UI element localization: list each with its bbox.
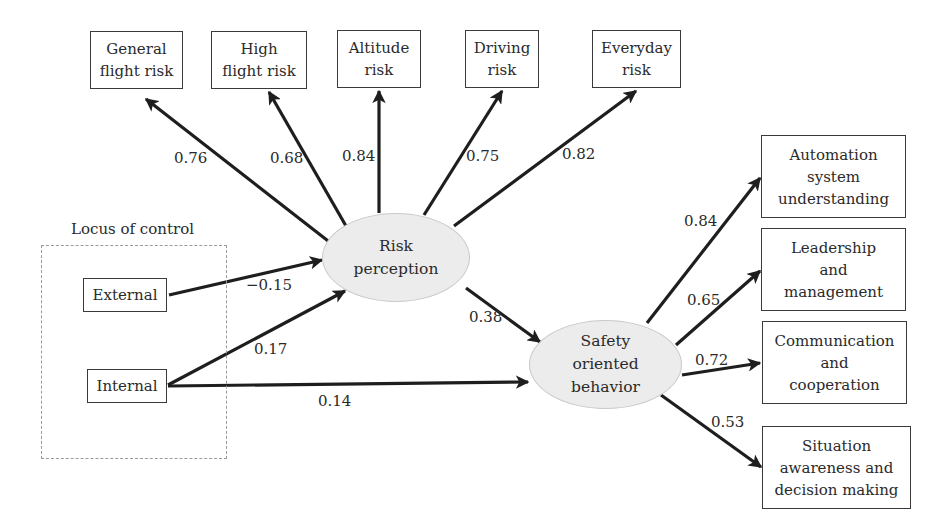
safety-behavior-line-2: oriented	[572, 353, 638, 376]
loading-general: 0.76	[174, 149, 207, 167]
internal-node: Internal	[87, 369, 167, 403]
communication-line-2: and	[820, 352, 848, 374]
altitude-risk-line-1: Altitude	[349, 37, 410, 59]
everyday-risk-node: Everyday risk	[592, 30, 681, 88]
everyday-risk-line-2: risk	[622, 59, 651, 81]
locus-of-control-title: Locus of control	[71, 220, 194, 238]
loading-communication: 0.72	[695, 351, 728, 369]
risk-perception-line-1: Risk	[379, 235, 413, 258]
loading-everyday: 0.82	[562, 145, 595, 163]
leadership-line-3: management	[784, 281, 883, 303]
loading-altitude: 0.84	[342, 147, 375, 165]
situation-awareness-line-1: Situation	[802, 435, 871, 457]
communication-line-3: cooperation	[789, 374, 880, 396]
loading-high: 0.68	[270, 149, 303, 167]
automation-line-2: system	[807, 166, 860, 188]
leadership-line-1: Leadership	[791, 237, 876, 259]
loading-situation: 0.53	[711, 413, 744, 431]
external-node: External	[83, 278, 167, 312]
risk-perception-line-2: perception	[354, 258, 439, 281]
safety-behavior-line-1: Safety	[581, 330, 631, 353]
driving-risk-line-2: risk	[488, 59, 517, 81]
automation-node: Automation system understanding	[761, 135, 906, 218]
situation-awareness-line-3: decision making	[775, 479, 899, 501]
altitude-risk-node: Altitude risk	[337, 30, 421, 88]
loading-driving: 0.75	[466, 147, 499, 165]
high-flight-risk-line-1: High	[240, 38, 277, 60]
leadership-line-2: and	[819, 259, 847, 281]
leadership-node: Leadership and management	[761, 228, 906, 311]
internal-label: Internal	[96, 375, 157, 397]
general-flight-risk-line-2: flight risk	[100, 60, 174, 82]
driving-risk-line-1: Driving	[474, 37, 531, 59]
high-flight-risk-line-2: flight risk	[222, 60, 296, 82]
coef-risk-safety: 0.38	[469, 308, 502, 326]
coef-internal-safety: 0.14	[318, 392, 351, 410]
situation-awareness-node: Situation awareness and decision making	[762, 426, 911, 509]
altitude-risk-line-2: risk	[365, 59, 394, 81]
automation-line-3: understanding	[778, 188, 889, 210]
situation-awareness-line-2: awareness and	[780, 457, 894, 479]
loading-automation: 0.84	[684, 212, 717, 230]
risk-perception-node: Risk perception	[322, 213, 470, 302]
general-flight-risk-node: General flight risk	[90, 31, 183, 89]
coef-external-risk: −0.15	[246, 276, 292, 294]
high-flight-risk-node: High flight risk	[211, 31, 307, 89]
communication-line-1: Communication	[775, 330, 895, 352]
driving-risk-node: Driving risk	[465, 30, 539, 88]
general-flight-risk-line-1: General	[106, 38, 166, 60]
communication-node: Communication and cooperation	[762, 321, 907, 404]
safety-behavior-line-3: behavior	[571, 376, 640, 399]
everyday-risk-line-1: Everyday	[601, 37, 672, 59]
external-label: External	[93, 284, 158, 306]
loading-leadership: 0.65	[687, 291, 720, 309]
coef-internal-risk: 0.17	[254, 340, 287, 358]
automation-line-1: Automation	[789, 144, 877, 166]
arrow-safety-to-situation	[661, 395, 761, 467]
safety-behavior-node: Safety oriented behavior	[529, 320, 682, 409]
